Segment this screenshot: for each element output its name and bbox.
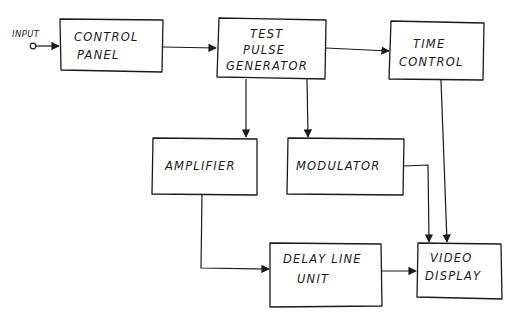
input-terminal-circle-icon: [30, 43, 36, 49]
block-time-control: TIME CONTROL: [389, 21, 484, 80]
block-modulator: MODULATOR: [287, 138, 404, 195]
video-display-label-line-2: DISPLAY: [425, 269, 481, 283]
input-label: INPUT: [12, 29, 40, 39]
delay-line-unit-label-line-2: UNIT: [297, 272, 329, 286]
block-test-pulse-generator: TEST PULSE GENERATOR: [217, 18, 326, 79]
arrow-test-pulse-generator-to-modulator: [307, 79, 308, 137]
input-terminal: INPUT: [12, 29, 40, 49]
arrow-amplifier-to-delay-line-unit: [201, 195, 269, 269]
modulator-label: MODULATOR: [296, 159, 381, 173]
arrow-time-control-to-video-display: [441, 80, 447, 242]
arrow-modulator-to-video-display: [404, 165, 429, 242]
block-diagram: INPUT CONTROL PANEL TEST PULSE GENERATOR…: [0, 0, 512, 321]
time-control-label-line-1: TIME: [413, 37, 445, 51]
block-control-panel: CONTROL PANEL: [60, 19, 163, 72]
arrow-test-pulse-generator-to-time-control: [326, 48, 389, 51]
video-display-label-line-1: VIDEO: [430, 251, 472, 265]
test-pulse-generator-label-line-2: PULSE: [243, 43, 285, 57]
arrow-control-panel-to-test-pulse-generator: [163, 47, 216, 48]
block-delay-line-unit: DELAY LINE UNIT: [270, 243, 382, 307]
time-control-label-line-2: CONTROL: [399, 55, 464, 69]
delay-line-unit-label-line-1: DELAY LINE: [283, 252, 362, 266]
test-pulse-generator-label-line-3: GENERATOR: [226, 59, 308, 73]
control-panel-label-line-2: PANEL: [77, 48, 120, 62]
control-panel-label-line-1: CONTROL: [74, 30, 139, 44]
block-amplifier: AMPLIFIER: [152, 138, 257, 195]
test-pulse-generator-label-line-1: TEST: [250, 27, 283, 41]
block-video-display: VIDEO DISPLAY: [417, 243, 502, 299]
amplifier-label: AMPLIFIER: [164, 159, 236, 173]
